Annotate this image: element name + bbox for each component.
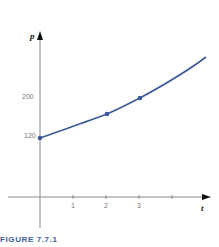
- x-axis-arrow-icon: [202, 194, 211, 200]
- y-tick-label-120: 120: [24, 132, 36, 139]
- x-tick-label-2: 2: [104, 202, 108, 209]
- growth-curve: [40, 57, 206, 138]
- x-tick-label-1: 1: [71, 202, 75, 209]
- y-axis-label: p: [29, 31, 35, 41]
- y-axis-arrow-icon: [37, 31, 43, 40]
- data-point-t0: [38, 136, 43, 141]
- data-point-t2: [105, 112, 110, 117]
- data-point-t3: [138, 96, 143, 101]
- figure-chart: p t 1 2 3 200 120: [0, 0, 219, 247]
- y-tick-label-200: 200: [22, 93, 34, 100]
- x-axis-label: t: [201, 203, 204, 213]
- x-tick-label-3: 3: [137, 202, 141, 209]
- figure-caption: FIGURE 7.7.1: [0, 235, 57, 244]
